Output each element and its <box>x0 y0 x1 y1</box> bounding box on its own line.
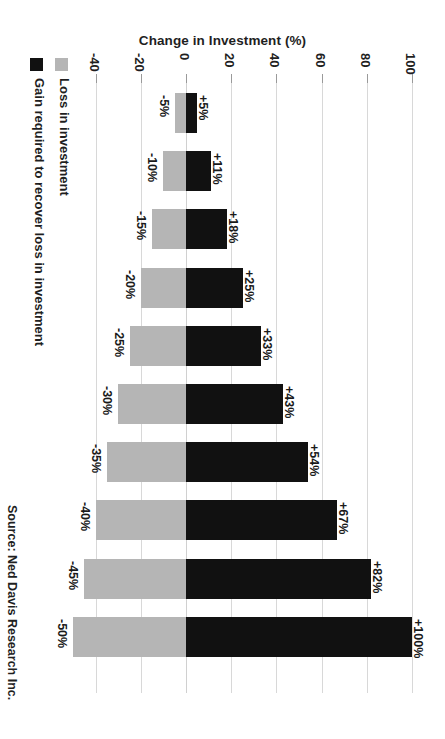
bar-group <box>0 326 445 366</box>
bar-group <box>0 442 445 482</box>
bar-gain <box>186 151 211 191</box>
bar-group <box>0 268 445 308</box>
bar-gain <box>186 442 308 482</box>
bar-label-gain: +67% <box>336 502 350 534</box>
bar-label-loss: -20% <box>123 270 137 299</box>
bar-group <box>0 384 445 424</box>
bar-label-gain: +54% <box>307 444 321 476</box>
bar-label-gain: +11% <box>210 153 224 185</box>
bar-label-loss: -45% <box>66 561 80 590</box>
chart-figure: Change in Investment (%) -40-20020406080… <box>0 0 445 739</box>
bar-group <box>0 93 445 133</box>
bar-label-gain: +33% <box>260 328 274 360</box>
bar-loss <box>84 559 186 599</box>
bar-label-loss: -30% <box>100 386 114 415</box>
bar-loss <box>107 442 186 482</box>
bar-gain <box>186 326 261 366</box>
bar-loss <box>118 384 186 424</box>
bar-loss <box>130 326 187 366</box>
bar-loss <box>163 151 186 191</box>
bar-label-loss: -5% <box>157 95 171 117</box>
bar-gain <box>186 617 412 657</box>
bar-gain <box>186 384 283 424</box>
bar-label-loss: -35% <box>89 444 103 473</box>
bar-label-gain: +82% <box>370 561 384 593</box>
bar-label-loss: -40% <box>78 502 92 531</box>
bar-group <box>0 209 445 249</box>
bar-label-gain: +100% <box>411 619 425 658</box>
bar-label-loss: -10% <box>145 153 159 182</box>
bar-gain <box>186 500 337 540</box>
bar-group <box>0 500 445 540</box>
bar-label-loss: -25% <box>112 328 126 357</box>
bar-label-gain: +18% <box>226 211 240 243</box>
bar-gain <box>186 559 371 599</box>
bar-loss <box>175 93 186 133</box>
bar-label-loss: -15% <box>134 211 148 240</box>
bar-loss <box>96 500 186 540</box>
chart-source: Source: Ned Davis Research Inc. <box>4 505 22 700</box>
bar-loss <box>73 617 186 657</box>
bar-gain <box>186 209 227 249</box>
chart-plot-area: -5%+5%-10%+11%-15%+18%-20%+25%-25%+33%-3… <box>0 0 445 739</box>
bar-loss <box>141 268 186 308</box>
bar-gain <box>186 268 243 308</box>
bar-label-loss: -50% <box>55 619 69 648</box>
bar-loss <box>152 209 186 249</box>
bar-label-gain: +25% <box>242 270 256 302</box>
chart-source-label: Source: Ned Davis Research Inc. <box>5 505 19 700</box>
bar-label-gain: +43% <box>282 386 296 418</box>
bar-label-gain: +5% <box>196 95 210 120</box>
